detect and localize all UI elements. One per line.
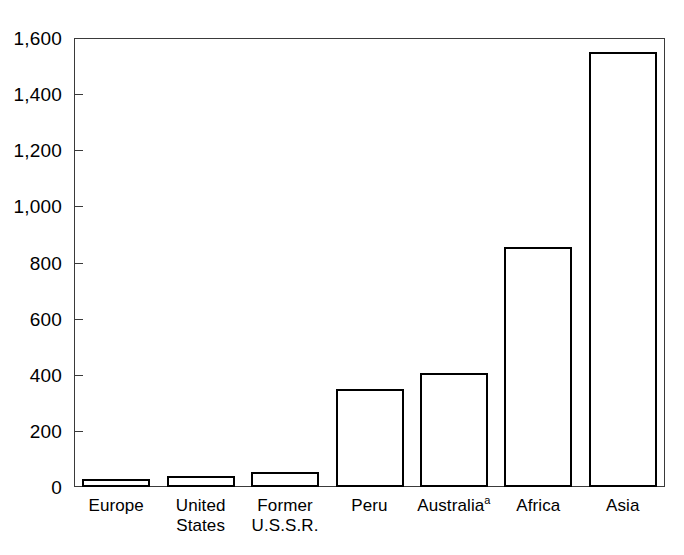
y-tick-label: 1,400 — [13, 85, 62, 104]
y-tick-mark — [74, 150, 83, 151]
bar — [420, 373, 488, 487]
y-tick-label: 600 — [30, 309, 62, 328]
bar — [251, 472, 319, 487]
bar — [589, 52, 657, 487]
x-tick-label: Australiaa — [412, 496, 496, 516]
y-tick-label: 800 — [30, 253, 62, 272]
y-tick-label: 1,000 — [13, 197, 62, 216]
x-tick-label: Europe — [74, 496, 158, 516]
y-tick-mark — [74, 375, 83, 376]
y-tick-mark — [74, 206, 83, 207]
bar-chart: · · · · · · · · · · · · · · · 0200400600… — [0, 0, 684, 555]
x-tick-label: Former U.S.S.R. — [243, 496, 327, 536]
x-tick-label: Africa — [496, 496, 580, 516]
y-tick-label: 1,600 — [13, 29, 62, 48]
bar — [336, 389, 404, 487]
y-tick-label: 200 — [30, 421, 62, 440]
bar — [167, 476, 235, 487]
cropped-title-remnant: · · · · · · · · · · · · · · · — [96, 0, 576, 2]
x-tick-label: United States — [158, 496, 242, 536]
y-tick-mark — [74, 431, 83, 432]
bar — [82, 479, 150, 487]
y-tick-label: 400 — [30, 365, 62, 384]
x-tick-label: Asia — [581, 496, 665, 516]
y-tick-mark — [74, 94, 83, 95]
bar — [504, 247, 572, 487]
x-tick-label: Peru — [327, 496, 411, 516]
footnote-marker: a — [484, 494, 490, 506]
y-tick-mark — [74, 319, 83, 320]
y-tick-label: 0 — [51, 478, 62, 497]
y-tick-mark — [74, 263, 83, 264]
y-tick-label: 1,200 — [13, 141, 62, 160]
